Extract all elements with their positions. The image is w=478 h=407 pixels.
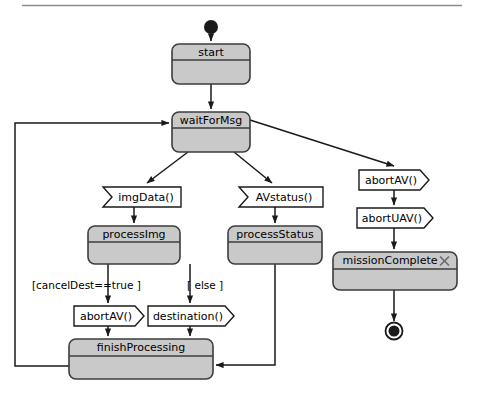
state-start[interactable]: start bbox=[172, 44, 250, 84]
edge-waitformsg-to-avstatus bbox=[234, 152, 272, 183]
initial-node bbox=[204, 20, 218, 34]
signal-avstatus-label: AVstatus() bbox=[256, 191, 313, 204]
edge-waitformsg-to-imgdata bbox=[147, 152, 188, 183]
guard-canceldest-label: [cancelDest==true ] bbox=[32, 279, 141, 291]
signal-avstatus[interactable]: AVstatus() bbox=[239, 187, 323, 207]
edge-waitformsg-to-abortav-right bbox=[250, 120, 394, 166]
state-waitformsg[interactable]: waitForMsg bbox=[172, 112, 250, 152]
signal-abortav-left-label: abortAV() bbox=[80, 310, 132, 323]
signal-destination-label: destination() bbox=[153, 310, 223, 323]
state-finishprocessing-label: finishProcessing bbox=[97, 341, 185, 354]
state-missioncomplete[interactable]: missionComplete bbox=[333, 252, 457, 290]
signal-abortav-right[interactable]: abortAV() bbox=[359, 170, 429, 190]
guard-else-label: [ else ] bbox=[187, 279, 223, 291]
state-waitformsg-label: waitForMsg bbox=[180, 114, 243, 127]
signal-abortav-right-label: abortAV() bbox=[365, 174, 417, 187]
signal-abortuav-label: abortUAV() bbox=[362, 212, 422, 225]
state-processstatus-label: processStatus bbox=[236, 228, 314, 241]
state-processimg[interactable]: processImg bbox=[88, 226, 180, 264]
signal-abortuav[interactable]: abortUAV() bbox=[357, 208, 433, 228]
signal-destination[interactable]: destination() bbox=[148, 306, 234, 326]
state-processimg-label: processImg bbox=[102, 228, 165, 241]
state-finishprocessing[interactable]: finishProcessing bbox=[69, 339, 213, 379]
state-processstatus[interactable]: processStatus bbox=[228, 226, 322, 264]
state-missioncomplete-label: missionComplete bbox=[342, 254, 437, 267]
final-node bbox=[386, 323, 403, 340]
signal-imgdata-label: imgData() bbox=[118, 191, 174, 204]
signal-imgdata[interactable]: imgData() bbox=[103, 187, 181, 207]
signal-abortav-left[interactable]: abortAV() bbox=[74, 306, 144, 326]
state-start-label: start bbox=[198, 46, 224, 59]
activity-diagram-canvas: start waitForMsg processImg processStatu… bbox=[0, 0, 478, 407]
